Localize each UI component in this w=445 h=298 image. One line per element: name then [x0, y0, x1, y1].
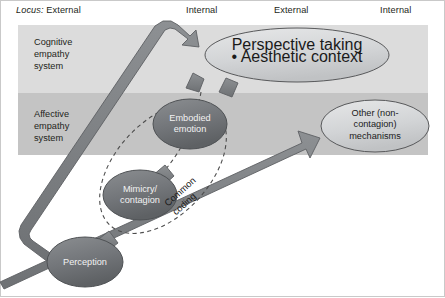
locus-label-internal-1: Internal — [186, 5, 217, 15]
empathy-model-diagram: Locus: External Internal External Intern… — [0, 0, 445, 298]
node-embodied-emotion — [153, 99, 227, 149]
node-perspective-taking — [205, 28, 389, 82]
band-label-affective-line-3: system — [34, 132, 69, 144]
locus-label-internal-2: Internal — [380, 5, 411, 15]
locus-label-external-2: External — [274, 5, 309, 15]
band-label-cognitive-empathy-system: Cognitive empathy system — [34, 36, 72, 73]
locus-prefix: Locus: — [16, 5, 44, 15]
band-label-cognitive-line-1: Cognitive — [34, 36, 72, 48]
locus-label-external-1: External — [46, 5, 81, 15]
locus-row-external-1: Locus: External — [16, 5, 81, 15]
band-label-affective-line-2: empathy — [34, 120, 69, 132]
node-other-mechanisms — [321, 100, 429, 152]
band-label-cognitive-line-2: empathy — [34, 48, 72, 60]
band-label-affective-empathy-system: Affective empathy system — [34, 108, 69, 145]
band-label-cognitive-line-3: system — [34, 60, 72, 72]
band-label-affective-line-1: Affective — [34, 108, 69, 120]
node-perception — [47, 237, 123, 287]
